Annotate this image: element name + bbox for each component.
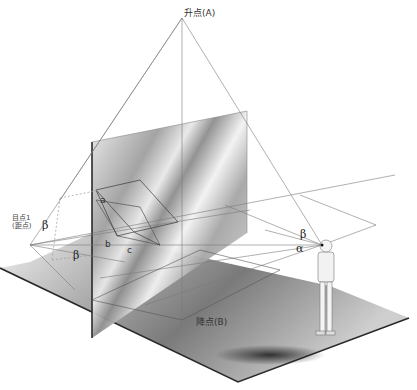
eye-point-label-line1: 目点1 bbox=[12, 214, 31, 222]
angle-beta-left: β bbox=[42, 220, 48, 231]
edge-b-label: b bbox=[105, 240, 111, 249]
falling-point-label: 降点(B) bbox=[196, 318, 227, 327]
eye-point-label: 目点1 (距点) bbox=[12, 214, 31, 230]
angle-beta-lower: β bbox=[73, 250, 79, 261]
edge-a-label: a bbox=[100, 196, 106, 205]
eye-point-label-line2: (距点) bbox=[12, 222, 31, 230]
perspective-diagram: 升点(A) 降点(B) 目点1 (距点) a b c β β β α bbox=[0, 0, 417, 390]
angle-beta-observer: β bbox=[300, 229, 306, 240]
angle-alpha-observer: α bbox=[296, 243, 303, 254]
rising-point-label: 升点(A) bbox=[184, 9, 215, 18]
edge-c-label: c bbox=[127, 246, 132, 255]
